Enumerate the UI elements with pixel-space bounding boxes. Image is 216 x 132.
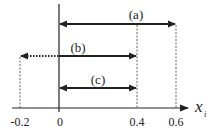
interval-a-label: (a) [129, 7, 143, 22]
interval-diagram: (a) (b) (c) -0.2 0 0.4 0.6 x i [0, 0, 216, 132]
tick-label-0.6: 0.6 [169, 115, 184, 129]
interval-c-label: (c) [91, 72, 105, 87]
tick-label-neg-0.2: -0.2 [11, 115, 30, 129]
tick-label-0.4: 0.4 [130, 115, 145, 129]
axis-subscript: i [204, 109, 207, 119]
interval-b-label: (b) [70, 40, 85, 55]
axis-name: x [194, 97, 203, 116]
tick-label-0: 0 [57, 115, 63, 129]
